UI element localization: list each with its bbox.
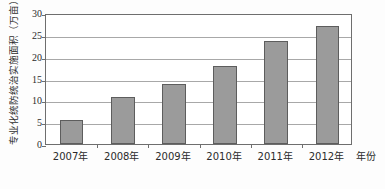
y-axis-title-text: 专业化统防统治实施面积（万亩） (6, 0, 20, 145)
x-axis-tick-label: 2012年 (309, 150, 344, 164)
x-axis-tick-label: 2010年 (206, 150, 241, 164)
bar (60, 120, 84, 144)
y-axis-tick-mark (42, 124, 46, 125)
bar (213, 66, 237, 144)
y-axis-tick-mark (42, 59, 46, 60)
y-axis-tick-label: 30 (20, 9, 42, 19)
y-axis-tick-mark (42, 146, 46, 147)
x-axis-tick-mark (200, 144, 201, 148)
x-axis-tick-mark (148, 144, 149, 148)
y-axis-tick-label: 15 (20, 75, 42, 85)
x-axis-title: 年份 (356, 150, 376, 164)
bar-chart-figure: 专业化统防统治实施面积（万亩） 051015202530 2007年2008年2… (0, 0, 385, 189)
y-axis-tick-mark (42, 15, 46, 16)
x-axis-tick-label: 2008年 (104, 150, 139, 164)
x-axis-tick-mark (251, 144, 252, 148)
y-axis-tick-mark (42, 81, 46, 82)
bar-series (46, 15, 351, 144)
y-axis-tick-label: 0 (20, 140, 42, 150)
y-axis-tick-label: 25 (20, 31, 42, 41)
bar (264, 41, 288, 144)
y-axis-tick-label: 10 (20, 96, 42, 106)
y-axis-tick-mark (42, 102, 46, 103)
x-axis-tick-mark (97, 144, 98, 148)
x-axis-tick-label: 2007年 (53, 150, 88, 164)
bar (316, 26, 340, 144)
y-axis-title: 专业化统防统治实施面积（万亩） (5, 0, 21, 144)
bar (111, 97, 135, 144)
plot-area (45, 14, 352, 145)
x-axis-tick-mark (302, 144, 303, 148)
y-axis-tick-label: 20 (20, 53, 42, 63)
y-axis-tick-label: 5 (20, 118, 42, 128)
x-axis-tick-label: 2011年 (258, 150, 293, 164)
y-axis-tick-mark (42, 37, 46, 38)
x-axis-tick-label: 2009年 (155, 150, 190, 164)
x-axis-tick-labels: 2007年2008年2009年2010年2011年2012年 (45, 150, 352, 168)
y-axis-tick-labels: 051015202530 (20, 9, 42, 159)
bar (162, 84, 186, 144)
